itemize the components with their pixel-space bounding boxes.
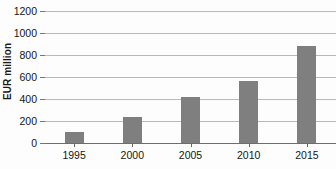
y-axis-tick-label: 800 [3,50,37,61]
gridline [45,55,336,56]
gridline [45,11,336,12]
x-axis-tick-mark [132,143,133,147]
y-axis-tick-label: 1000 [3,28,37,39]
y-axis-tick-label: 0 [3,138,37,149]
bar [123,117,142,143]
y-axis-tick-mark [40,55,45,56]
y-axis-tick-mark [40,143,45,144]
y-axis-tick-label: 600 [3,72,37,83]
x-axis-tick-label: 2000 [109,150,155,161]
bar [239,81,258,143]
y-axis-tick-mark [40,77,45,78]
x-axis-tick-label: 2010 [226,150,272,161]
y-axis-tick-label: 1200 [3,6,37,17]
bar [65,132,84,143]
x-axis-tick-mark [191,143,192,147]
y-axis-tick-label: 400 [3,94,37,105]
bar-chart-figure: EUR million 020040060080010001200 199520… [0,0,336,169]
x-axis-tick-label: 2015 [284,150,330,161]
x-axis-tick-label: 2005 [168,150,214,161]
plot-area [45,11,336,143]
gridline [45,77,336,78]
x-axis-tick-mark [249,143,250,147]
y-axis-tick-mark [40,11,45,12]
x-axis-tick-label: 1995 [51,150,97,161]
bar [297,46,316,143]
bar [181,97,200,143]
x-axis-tick-mark [307,143,308,147]
x-axis-tick-mark [74,143,75,147]
y-axis-tick-mark [40,99,45,100]
y-axis-tick-label: 200 [3,116,37,127]
y-axis-tick-mark [40,121,45,122]
y-axis-tick-mark [40,33,45,34]
gridline [45,33,336,34]
